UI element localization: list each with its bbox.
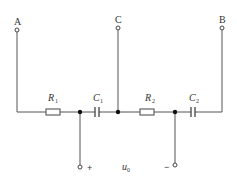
label-c: C: [115, 14, 122, 25]
svg-text:2: 2: [152, 98, 155, 104]
label-minus: −: [164, 162, 169, 172]
circuit-diagram: A C B + − R 1 C 1 R 2 C 2 u 0: [0, 0, 237, 185]
junction-node: [173, 110, 177, 114]
svg-text:C: C: [93, 92, 100, 103]
terminal-c: [116, 26, 120, 30]
svg-text:1: 1: [100, 98, 103, 104]
label-plus: +: [87, 163, 92, 173]
svg-text:R: R: [144, 92, 151, 103]
svg-text:R: R: [47, 92, 54, 103]
terminal-minus: [173, 163, 177, 167]
svg-text:1: 1: [55, 98, 58, 104]
label-c1: C 1: [93, 92, 103, 104]
label-a: A: [14, 16, 22, 27]
wire-b: [195, 30, 222, 112]
label-r2: R 2: [144, 92, 155, 104]
label-output-voltage: u 0: [122, 161, 130, 173]
resistor-r2: [140, 109, 154, 115]
capacitor-c2: [191, 107, 195, 117]
capacitor-c1: [95, 107, 99, 117]
wire-a: [17, 32, 46, 112]
terminal-a: [15, 28, 19, 32]
resistor-r1: [46, 109, 60, 115]
svg-text:0: 0: [127, 167, 130, 173]
label-r1: R 1: [47, 92, 58, 104]
svg-text:2: 2: [196, 98, 199, 104]
terminal-b: [220, 26, 224, 30]
junction-node: [78, 110, 82, 114]
label-b: B: [219, 14, 226, 25]
label-c2: C 2: [189, 92, 199, 104]
junction-node: [116, 110, 120, 114]
svg-text:C: C: [189, 92, 196, 103]
terminal-plus: [78, 165, 82, 169]
